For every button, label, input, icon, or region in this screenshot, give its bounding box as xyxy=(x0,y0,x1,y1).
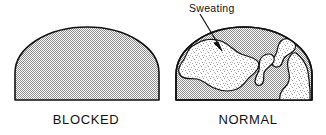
blocked-dome-shape xyxy=(15,27,159,100)
caption-normal: NORMAL xyxy=(170,112,326,127)
figure-root: Sweating BLOCKED NORMAL xyxy=(0,0,326,135)
panel-blocked xyxy=(15,27,159,100)
caption-blocked: BLOCKED xyxy=(0,112,172,127)
panel-normal xyxy=(176,27,312,101)
sweating-label: Sweating xyxy=(189,2,235,14)
